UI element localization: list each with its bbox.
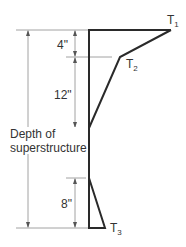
arrow-down-icon bbox=[73, 51, 77, 57]
segment-4in-dimension bbox=[73, 30, 77, 57]
arrow-up-icon bbox=[73, 178, 77, 184]
arrow-down-icon bbox=[73, 222, 77, 228]
arrow-up-icon bbox=[26, 30, 30, 36]
depth-label-line1: Depth of bbox=[10, 127, 56, 141]
segment-12in-dimension bbox=[73, 57, 77, 128]
temperature-gradient-diagram: T1 T2 T3 4" 12" 8" Depth of superstructu… bbox=[0, 0, 186, 247]
arrow-up-icon bbox=[73, 30, 77, 36]
t3-label: T3 bbox=[110, 221, 122, 237]
dimension-12in-label: 12" bbox=[54, 88, 72, 102]
dimension-4in-label: 4" bbox=[57, 38, 68, 52]
depth-label-line2: superstructure bbox=[10, 141, 87, 155]
t2-label: T2 bbox=[126, 57, 138, 73]
t1-label: T1 bbox=[167, 13, 179, 29]
lower-gradient-line bbox=[88, 178, 105, 228]
arrow-down-icon bbox=[26, 222, 30, 228]
upper-gradient-line bbox=[89, 30, 171, 128]
arrow-up-icon bbox=[73, 57, 77, 63]
dimension-8in-label: 8" bbox=[61, 197, 72, 211]
segment-8in-dimension bbox=[73, 178, 77, 228]
